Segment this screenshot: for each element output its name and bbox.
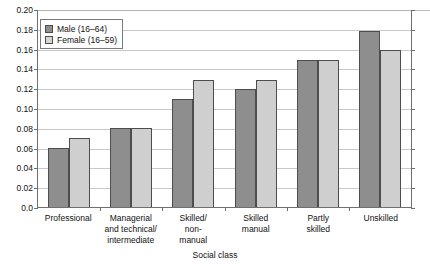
x-axis-category-label: Managerialand technical/intermediate	[100, 213, 163, 246]
x-axis-title: Social class	[0, 250, 430, 260]
x-axis-category-label: Unskilled	[350, 213, 413, 246]
legend-label: Female (16–59)	[57, 35, 117, 45]
bar-female[interactable]	[193, 80, 214, 207]
bar-female[interactable]	[380, 50, 401, 207]
y-axis-tick-right	[411, 208, 415, 209]
y-axis-tick-right	[411, 109, 415, 110]
y-axis-tick-right	[411, 149, 415, 150]
x-axis-category-label-line: intermediate	[101, 235, 162, 246]
x-axis-category-label-line: Partly	[288, 213, 349, 224]
x-axis-category-label-line: manual	[226, 224, 287, 235]
x-axis-category-label-line: manual	[163, 235, 224, 246]
x-axis-category-label-line: Unskilled	[351, 213, 412, 224]
x-axis-category-label-line: and technical/	[101, 224, 162, 235]
legend-item[interactable]: Female (16–59)	[45, 34, 117, 45]
x-axis-category-label-line: Skilled/	[163, 213, 224, 224]
x-axis-category-label: Skilled/non-manual	[162, 213, 225, 246]
y-axis-tick-right	[411, 50, 415, 51]
bar-female[interactable]	[69, 138, 90, 207]
bar-male[interactable]	[110, 128, 131, 207]
bar-male[interactable]	[297, 60, 318, 208]
legend-label: Male (16–64)	[57, 24, 107, 34]
y-axis-tick-label: 0.08	[16, 124, 33, 133]
x-axis-category-label-line: Professional	[38, 213, 99, 224]
bar-chart: 0.200.180.160.140.120.100.080.060.040.02…	[0, 0, 430, 269]
bar-male[interactable]	[48, 148, 69, 207]
bar-male[interactable]	[172, 99, 193, 207]
y-axis-tick-label: 0.04	[16, 164, 33, 173]
x-axis-title-text: Social class	[193, 250, 238, 260]
x-axis-category-label-line: skilled	[288, 224, 349, 235]
bar-group	[349, 10, 411, 207]
bar-group	[162, 10, 224, 207]
y-axis-tick-label: 0.16	[16, 45, 33, 54]
y-axis-tick-right	[411, 10, 415, 11]
bar-female[interactable]	[256, 80, 277, 207]
x-axis-tick	[225, 207, 226, 211]
y-axis-tick-right	[411, 69, 415, 70]
y-axis-tick-label: 0.12	[16, 85, 33, 94]
y-axis-tick-right	[411, 30, 415, 31]
y-axis-tick-label: 0.10	[16, 105, 33, 114]
x-axis-category-label: Partlyskilled	[287, 213, 350, 246]
y-axis-tick-right	[411, 168, 415, 169]
legend: Male (16–64)Female (16–59)	[40, 19, 123, 49]
x-axis-category-labels: ProfessionalManagerialand technical/inte…	[37, 213, 412, 246]
x-axis-tick	[100, 207, 101, 211]
x-axis-category-label-line: non-	[163, 224, 224, 235]
x-axis-category-label: Skilledmanual	[225, 213, 288, 246]
y-axis-tick-label: 0.0	[21, 204, 33, 213]
y-axis-tick	[34, 208, 38, 209]
bar-group	[287, 10, 349, 207]
y-axis-tick-label: 0.20	[16, 6, 33, 15]
bar-male[interactable]	[235, 89, 256, 207]
bar-female[interactable]	[318, 60, 339, 208]
bar-female[interactable]	[131, 128, 152, 207]
y-axis-tick-right	[411, 129, 415, 130]
y-axis-tick-label: 0.18	[16, 25, 33, 34]
bar-group	[225, 10, 287, 207]
legend-item[interactable]: Male (16–64)	[45, 23, 117, 34]
x-axis-category-label-line: Skilled	[226, 213, 287, 224]
x-axis-category-label: Professional	[37, 213, 100, 246]
legend-swatch-male	[45, 25, 53, 33]
x-axis-tick	[287, 207, 288, 211]
y-axis-tick-label: 0.06	[16, 144, 33, 153]
y-axis-tick-label: 0.14	[16, 65, 33, 74]
y-axis-tick-labels: 0.200.180.160.140.120.100.080.060.040.02…	[0, 0, 33, 215]
x-axis-tick	[162, 207, 163, 211]
x-axis-category-label-line: Managerial	[101, 213, 162, 224]
legend-swatch-female	[45, 36, 53, 44]
y-axis-tick-right	[411, 188, 415, 189]
y-axis-tick-right	[411, 89, 415, 90]
y-axis-tick-label: 0.02	[16, 184, 33, 193]
bar-male[interactable]	[359, 31, 380, 207]
x-axis-tick	[349, 207, 350, 211]
